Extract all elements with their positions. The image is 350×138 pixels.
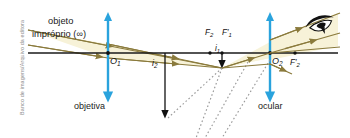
label-focus-F2-prime-sub: 2 [297, 62, 300, 68]
label-vertex-ocular: O2 [272, 56, 283, 67]
figure-canvas: Banco de imagens/Arquivo da editora obje… [0, 0, 350, 138]
focal-point-F2-dot [208, 51, 211, 54]
focal-point-F2prime-dot [293, 51, 296, 54]
label-vertex-objective: O1 [110, 56, 121, 67]
label-focus-F1-prime-sub: 1 [229, 32, 232, 38]
label-vertex-ocular-letter: O [272, 56, 279, 66]
label-focus-F2: F2 [205, 28, 213, 38]
image-credit: Banco de imagens/Arquivo da editora [19, 0, 25, 115]
label-object: objeto [48, 16, 73, 26]
label-focus-F2-sub: 2 [210, 32, 213, 38]
virtual-image-dotted-lines [168, 60, 270, 138]
label-vertex-objective-sub: 1 [117, 60, 121, 67]
label-vertex-ocular-sub: 2 [279, 60, 283, 67]
label-focus-F1-prime: F′1 [222, 28, 232, 38]
label-vertex-objective-letter: O [110, 56, 117, 66]
label-object-improper: impróprio (∞) [32, 29, 86, 39]
label-objective: objetiva [74, 101, 105, 111]
label-image-i1-sub: 1 [217, 48, 220, 54]
label-image-i2-sub: 2 [154, 62, 158, 69]
label-focus-F2-prime: F′2 [290, 58, 300, 68]
label-image-i1: i1 [215, 44, 220, 54]
label-image-i2: i2 [152, 58, 158, 69]
label-ocular: ocular [258, 101, 283, 111]
